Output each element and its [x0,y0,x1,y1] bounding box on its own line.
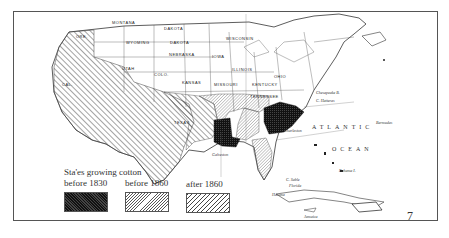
page-number: 7 [407,209,413,224]
ocean-label-atlantic: ATLANTIC [312,124,373,130]
legend-swatch-before-1860 [125,192,169,212]
state-label-kansas: KANSAS [182,80,201,85]
state-label-oregon: ORE. [76,34,88,39]
place-label-florida: Florida [289,183,301,188]
state-label-wisconsin: WISCONSIN [226,36,254,41]
place-label-chesapeake: Chesapeake B. [316,90,340,95]
state-label-utah: UTAH [122,66,135,71]
place-label-havana: Havana [272,192,285,197]
state-label-kentucky: KENTUCKY [252,82,278,87]
state-label-wyoming: WYOMING [126,40,150,45]
legend-label-after-1860: after 1860 [186,179,223,189]
place-label-charleston: Charleston [284,128,302,133]
state-label-tennessee: TENNESSEE [250,94,279,99]
legend-title: Sta'es growing cotton [64,167,142,177]
state-label-colorado: COLO. [154,72,169,77]
us-map-illustration [14,12,437,220]
place-label-cape-sable: C. Sable [286,177,300,182]
state-label-south-dakota: DAKOTA [170,40,189,45]
place-label-bahama: Bahama I. [339,168,356,173]
state-label-nebraska: NEBRASKA [169,52,195,57]
state-label-montana: MONTANA [112,20,135,25]
state-label-texas: TEXAS [174,120,190,125]
state-label-california: CAL. [62,82,73,87]
legend-label-before-1830: before 1830 [64,178,107,188]
ocean-label-ocean: OCEAN [332,146,373,152]
state-label-north-dakota: DAKOTA [164,26,183,31]
state-label-ohio: OHIO [274,74,286,79]
place-label-bermudas: Bermudas [376,120,392,125]
state-label-illinois: ILLINOIS [232,67,252,72]
legend-swatch-before-1830 [64,192,108,212]
legend-label-before-1860: before 1860 [125,178,168,188]
legend-swatch-after-1860 [186,193,230,213]
place-label-hatteras: C. Hatteras [316,98,335,103]
map-frame: MONTANA DAKOTA DAKOTA WYOMING NEBRASKA I… [13,11,438,221]
place-label-galveston: Galveston [212,152,228,157]
place-label-jamaica: Jamaica [304,214,318,219]
state-label-iowa: IOWA [212,54,225,59]
state-label-missouri: MISSOURI [214,82,238,87]
